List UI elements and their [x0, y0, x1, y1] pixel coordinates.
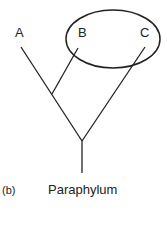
branch-c	[82, 47, 145, 141]
diagram-caption: Paraphylum	[48, 183, 117, 196]
branch-a	[21, 47, 82, 141]
taxon-a-label: A	[15, 26, 24, 39]
taxon-b-label: B	[78, 26, 87, 39]
taxon-c-label: C	[140, 26, 149, 39]
panel-label: (b)	[2, 185, 15, 196]
branch-b	[52, 48, 78, 94]
